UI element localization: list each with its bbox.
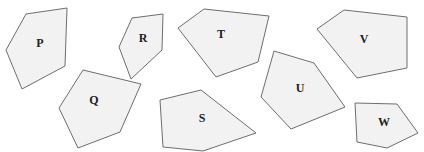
polygon-s (160, 90, 256, 151)
polygon-r (119, 14, 163, 79)
shape-r: R (119, 14, 163, 79)
shape-s: S (160, 90, 256, 151)
shape-q: Q (59, 70, 141, 148)
polygon-diagram: P R T V Q S U W (0, 0, 424, 152)
polygon-q (59, 70, 141, 148)
polygon-t (178, 9, 269, 77)
shape-t: T (178, 9, 269, 77)
label-v: V (360, 32, 369, 46)
label-s: S (199, 111, 206, 125)
shape-u: U (261, 51, 345, 129)
label-r: R (139, 31, 148, 45)
shape-v: V (317, 10, 407, 78)
shape-w: W (355, 103, 418, 148)
label-u: U (296, 81, 305, 95)
label-t: T (217, 27, 225, 41)
shape-p: P (6, 8, 67, 89)
label-q: Q (89, 93, 98, 107)
label-w: W (378, 115, 390, 129)
label-p: P (36, 36, 43, 50)
